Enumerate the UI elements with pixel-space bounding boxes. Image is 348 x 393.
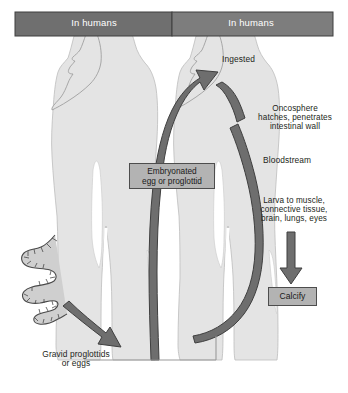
life-cycle-diagram: In humans In humans Ingested Oncosphere … [0,0,348,393]
box-embryonated-egg: Embryonated egg or proglottid [129,163,215,189]
box-calcify: Calcify [268,287,317,306]
label-gravid-proglottids: Gravid proglottids or eggs [24,350,128,369]
label-bloodstream: Bloodstream [263,156,311,165]
label-oncosphere: Oncosphere hatches, penetrates intestina… [249,104,341,132]
header-bar-left-label: In humans [18,18,170,28]
label-ingested: Ingested [222,55,255,64]
header-bar-right-label: In humans [172,18,330,28]
leg-gap-right [226,228,228,360]
arrow-to-calcify [280,232,302,284]
label-larva: Larva to muscle, connective tissue, brai… [244,196,344,224]
